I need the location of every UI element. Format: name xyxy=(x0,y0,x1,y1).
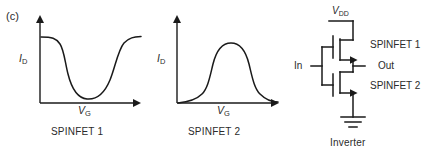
plot2-x-axis-label: VG xyxy=(217,104,230,116)
plot2-caption: SPINFET 2 xyxy=(188,126,240,137)
pull-down-spinfet-label: SPINFET 2 xyxy=(370,80,420,91)
pull-up-spinfet-label: SPINFET 1 xyxy=(370,39,420,50)
plot1-y-axis-subscript: D xyxy=(22,57,27,66)
output-label: Out xyxy=(378,60,394,71)
plot1-caption: SPINFET 1 xyxy=(51,126,103,137)
input-label: In xyxy=(294,60,302,71)
figure-panel-c: (c) xyxy=(0,0,427,155)
plot1-curve xyxy=(41,37,141,100)
plot2-y-axis-subscript: D xyxy=(160,57,165,66)
plot1-x-axis-label: VG xyxy=(78,104,91,116)
plot1-x-axis-symbol: V xyxy=(78,104,85,116)
plot2-y-axis-label: ID xyxy=(157,52,165,64)
plot2-x-axis-symbol: V xyxy=(217,104,224,116)
plot1-x-axis-subscript: G xyxy=(85,109,91,118)
vdd-symbol: V xyxy=(332,5,339,16)
plot2-curve xyxy=(178,43,278,103)
plot-spinfet-1 xyxy=(40,22,141,103)
inverter-schematic xyxy=(311,21,365,127)
plot-spinfet-2 xyxy=(177,22,278,103)
plot1-y-axis-label: ID xyxy=(19,52,27,64)
inverter-caption: Inverter xyxy=(330,137,366,148)
plot2-x-axis-subscript: G xyxy=(224,109,230,118)
vdd-subscript: DD xyxy=(339,10,349,17)
vdd-label: VDD xyxy=(332,5,349,16)
